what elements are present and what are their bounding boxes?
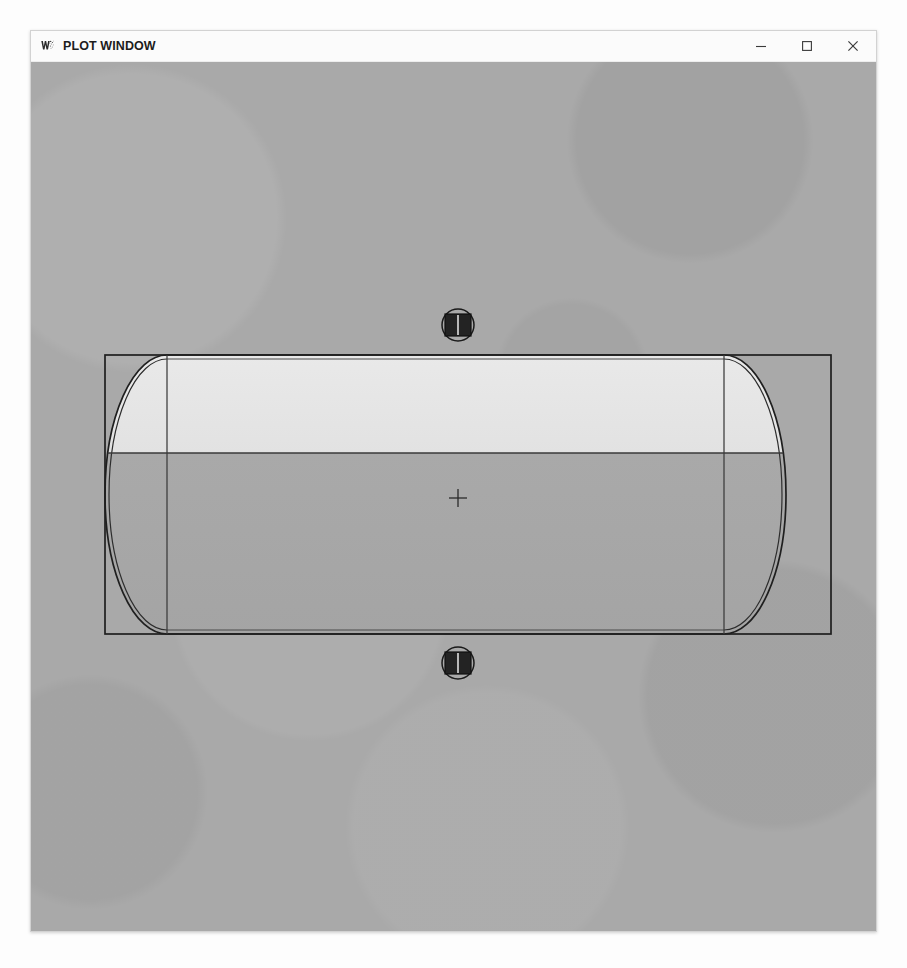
close-button[interactable]: [830, 31, 876, 62]
plot-window: PLOT WINDOW: [30, 30, 877, 932]
liquid-volume: [71, 453, 841, 683]
screen: PLOT WINDOW: [0, 0, 907, 968]
app-logo-icon: [40, 38, 56, 54]
minimize-button[interactable]: [738, 31, 784, 62]
window-controls: [738, 31, 876, 61]
maximize-button[interactable]: [784, 31, 830, 62]
title-bar: PLOT WINDOW: [31, 31, 876, 62]
window-title: PLOT WINDOW: [63, 39, 156, 53]
top-nozzle[interactable]: [442, 309, 474, 341]
minimize-icon: [755, 40, 767, 52]
bottom-nozzle[interactable]: [442, 647, 474, 679]
vessel-drawing: [31, 62, 876, 931]
maximize-icon: [801, 40, 813, 52]
plot-canvas[interactable]: [31, 62, 876, 931]
close-icon: [847, 40, 859, 52]
